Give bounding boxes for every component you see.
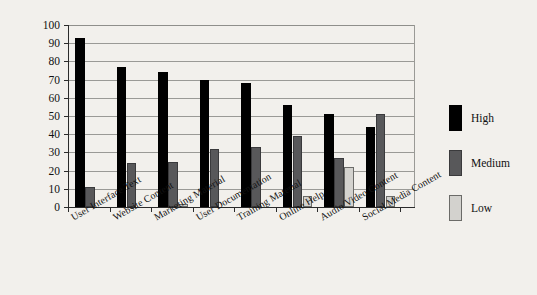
bar-high [75,38,85,207]
legend-swatch-high [449,105,462,131]
x-tick-mark [400,207,401,212]
bar-group [324,25,355,207]
bar-group [75,25,106,207]
x-tick-mark [193,207,194,212]
bar-medium [376,114,386,207]
y-tick-label: 100 [20,20,60,31]
x-tick-mark [276,207,277,212]
y-tick-label: 80 [20,56,60,67]
legend-label: Low [471,202,492,214]
y-tick-label: 70 [20,75,60,86]
bar-group [158,25,189,207]
x-tick-mark [234,207,235,212]
bar-chart: 1009080706050403020100 User Interface Te… [0,0,537,295]
legend-label: Medium [471,157,510,169]
legend-label: High [471,112,494,124]
legend-swatch-medium [449,150,462,176]
y-tick-label: 50 [20,111,60,122]
y-tick-label: 30 [20,147,60,158]
bar-medium [293,136,303,207]
x-tick-mark [110,207,111,212]
y-tick-label: 20 [20,166,60,177]
bar-groups [68,25,415,207]
y-tick-label: 40 [20,129,60,140]
y-tick-label: 90 [20,38,60,49]
x-tick-mark [68,207,69,212]
y-tick-label: 60 [20,93,60,104]
x-tick-mark [317,207,318,212]
legend-swatch-low [449,195,462,221]
y-tick-label: 10 [20,184,60,195]
bar-high [324,114,334,207]
x-tick-mark [359,207,360,212]
y-tick-label: 0 [20,202,60,213]
x-tick-mark [151,207,152,212]
